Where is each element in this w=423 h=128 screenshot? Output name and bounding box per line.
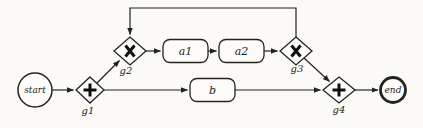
nodes-layer: start g1 g2 a1 a2 b g3 g4	[18, 37, 406, 116]
edge-g3-to-g2-loop	[130, 8, 296, 37]
process-diagram: start g1 g2 a1 a2 b g3 g4	[0, 0, 423, 128]
edges-layer	[53, 8, 379, 90]
gateway-g1-label: g1	[82, 105, 95, 116]
edge-g3-to-g4	[304, 58, 330, 82]
edge-g1-to-g2	[96, 61, 120, 85]
gateway-g4-label: g4	[333, 104, 346, 115]
task-a2-label: a2	[235, 45, 249, 58]
task-b-label: b	[209, 84, 216, 97]
end-event-label: end	[385, 85, 402, 95]
start-event-label: start	[24, 85, 46, 95]
gateway-g3-label: g3	[291, 63, 304, 74]
task-a1-label: a1	[179, 45, 193, 58]
diagram-svg: start g1 g2 a1 a2 b g3 g4	[0, 0, 423, 128]
gateway-g2-label: g2	[120, 65, 133, 76]
